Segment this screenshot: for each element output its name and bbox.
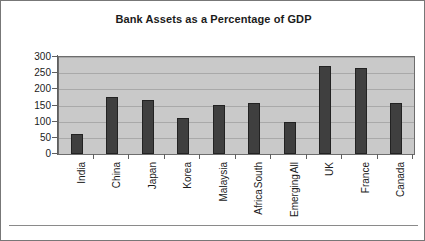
y-axis-tick-mark [52, 121, 57, 122]
x-axis-label-line: Canada [395, 162, 406, 197]
x-axis-tick-label: AllEmerging [289, 162, 300, 217]
x-axis-tick-mark [200, 154, 236, 159]
y-axis-tick-label: 50 [1, 131, 51, 142]
y-axis-tick-mark [52, 137, 57, 138]
x-axis-tick-mark [129, 154, 165, 159]
bar [142, 100, 154, 154]
x-axis-tick-label: Canada [395, 162, 406, 197]
x-axis-label-line: China [111, 162, 122, 188]
bar [284, 122, 296, 154]
bar-slot [95, 57, 131, 154]
chart-title: Bank Assets as a Percentage of GDP [1, 13, 425, 25]
x-axis-label-line: Malaysia [218, 162, 229, 201]
y-axis-tick-mark [52, 105, 57, 106]
x-axis-tick-mark [165, 154, 201, 159]
bar [248, 103, 260, 154]
x-axis-label-cell: Malaysia [200, 160, 236, 220]
y-axis-tick-mark [52, 153, 57, 154]
x-axis-labels: IndiaChinaJapanKoreaMalaysiaSouthAfricaA… [58, 160, 413, 220]
x-axis-tick-label: France [360, 162, 371, 193]
x-axis-tick-mark [307, 154, 343, 159]
bar-slot [166, 57, 202, 154]
x-axis-tick-label: SouthAfrica [253, 162, 264, 215]
x-axis-label-line: Emerging [289, 174, 300, 217]
x-axis-label-cell: AllEmerging [271, 160, 307, 220]
x-axis-label-cell: SouthAfrica [236, 160, 272, 220]
x-axis-tick-label: Japan [147, 162, 158, 189]
x-axis-tick-mark [236, 154, 272, 159]
x-axis-label-line: Africa [253, 189, 264, 215]
y-axis-tick-label: 0 [1, 148, 51, 159]
x-axis-tick-label: India [76, 162, 87, 184]
bottom-divider [9, 225, 418, 226]
y-axis-labels: 050100150200250300 [1, 56, 51, 153]
x-axis-label-cell: Canada [378, 160, 414, 220]
bar [213, 105, 225, 154]
bar [71, 134, 83, 154]
x-axis-tick-mark [94, 154, 130, 159]
x-axis-tick-label: Malaysia [218, 162, 229, 201]
x-axis-label-cell: Japan [129, 160, 165, 220]
bar-slot [59, 57, 95, 154]
bar-slot [130, 57, 166, 154]
x-axis-label-line: India [76, 162, 87, 184]
x-axis-tick-label: UK [324, 162, 335, 176]
bar-slot [379, 57, 415, 154]
x-axis-tick-mark [58, 154, 94, 159]
x-axis-label-cell: France [342, 160, 378, 220]
bar [319, 66, 331, 154]
x-axis-label-line: UK [324, 162, 335, 176]
y-axis-tick-mark [52, 72, 57, 73]
x-axis-label-cell: UK [307, 160, 343, 220]
x-axis-ticks [58, 154, 413, 159]
x-axis-tick-label: Korea [182, 162, 193, 189]
x-axis-label-cell: Korea [165, 160, 201, 220]
y-axis-tick-label: 150 [1, 99, 51, 110]
x-axis-tick-label: China [111, 162, 122, 188]
x-axis-tick-mark [342, 154, 378, 159]
bar-slot [272, 57, 308, 154]
y-axis-tick-label: 100 [1, 115, 51, 126]
y-axis-tick-mark [52, 88, 57, 89]
bar [355, 68, 367, 154]
bar-series [59, 57, 414, 154]
bar-slot [237, 57, 273, 154]
y-axis-tick-label: 300 [1, 51, 51, 62]
x-axis-label-cell: India [58, 160, 94, 220]
bar-slot [343, 57, 379, 154]
y-axis-tick-label: 250 [1, 67, 51, 78]
y-axis-tick-label: 200 [1, 83, 51, 94]
x-axis-tick-mark [271, 154, 307, 159]
bar [177, 118, 189, 154]
bar-slot [308, 57, 344, 154]
plot-area [58, 56, 415, 155]
x-axis-tick-mark [378, 154, 414, 159]
bar [106, 97, 118, 154]
x-axis-label-line: Korea [182, 162, 193, 189]
bar [390, 103, 402, 154]
x-axis-label-cell: China [94, 160, 130, 220]
bar-slot [201, 57, 237, 154]
x-axis-label-line: France [360, 162, 371, 193]
x-axis-label-line: South [253, 162, 264, 188]
x-axis-label-line: All [289, 162, 300, 173]
chart-container: Bank Assets as a Percentage of GDP 05010… [0, 0, 425, 241]
y-axis-tick-mark [52, 56, 57, 57]
x-axis-label-line: Japan [147, 162, 158, 189]
